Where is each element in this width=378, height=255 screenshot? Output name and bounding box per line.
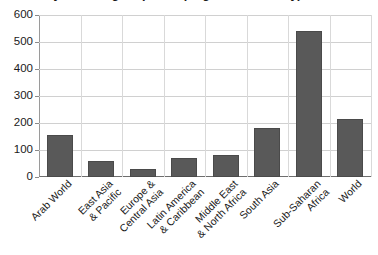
y-tick-label: 400 bbox=[1, 63, 33, 74]
x-tick-label-line: Arab World bbox=[29, 178, 74, 223]
x-axis-labels: Arab WorldEast Asia& PacificEurope &Cent… bbox=[39, 178, 371, 255]
chart-title: by world region (developing countries on… bbox=[0, 0, 378, 1]
bar bbox=[213, 155, 239, 177]
bar bbox=[296, 31, 322, 177]
y-tick-label: 600 bbox=[1, 9, 33, 20]
chart-title-line: by world region (developing countries on… bbox=[0, 0, 378, 1]
y-tick-label: 0 bbox=[1, 171, 33, 182]
bar bbox=[254, 128, 280, 177]
y-tick-label: 100 bbox=[1, 144, 33, 155]
plot-area bbox=[39, 15, 371, 177]
x-tick-label: World bbox=[337, 178, 364, 205]
bar bbox=[337, 119, 363, 177]
bars-layer bbox=[39, 15, 371, 177]
y-tick-label: 200 bbox=[1, 117, 33, 128]
x-tick-label-line: World bbox=[337, 178, 364, 205]
bar bbox=[88, 161, 114, 177]
y-tick-label: 500 bbox=[1, 36, 33, 47]
bar bbox=[47, 135, 73, 177]
y-tick-label: 300 bbox=[1, 90, 33, 101]
x-tick-label: Arab World bbox=[29, 178, 74, 223]
bar bbox=[130, 169, 156, 177]
bar bbox=[171, 158, 197, 177]
gridline-vertical bbox=[371, 15, 372, 177]
bar-chart: by world region (developing countries on… bbox=[0, 0, 378, 255]
